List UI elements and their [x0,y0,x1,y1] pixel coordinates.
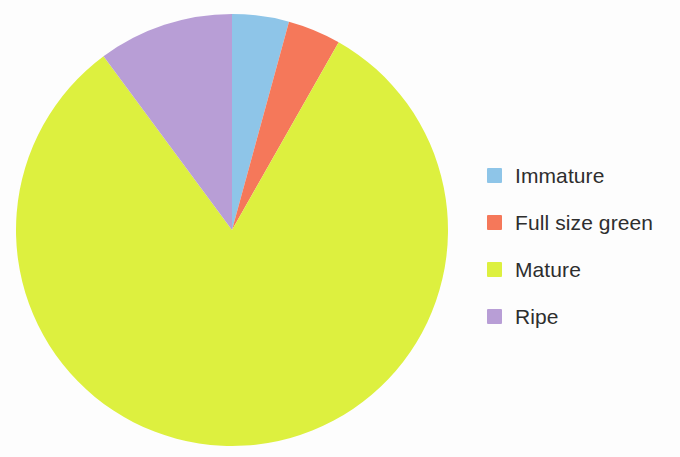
legend-item-immature[interactable]: Immature [487,152,677,199]
pie-chart-svg [0,0,470,457]
chart-legend: Immature Full size green Mature Ripe [487,152,677,340]
legend-swatch-mature [487,262,502,277]
pie-slice-group [16,14,448,446]
legend-label-mature: Mature [515,259,581,280]
legend-item-ripe[interactable]: Ripe [487,293,677,340]
pie-chart-figure: Immature Full size green Mature Ripe [0,0,680,457]
legend-item-full-size-green[interactable]: Full size green [487,199,677,246]
legend-label-immature: Immature [515,165,605,186]
pie-chart-plot-area [0,0,470,457]
legend-swatch-ripe [487,309,502,324]
legend-item-mature[interactable]: Mature [487,246,677,293]
legend-label-ripe: Ripe [515,306,559,327]
legend-label-full-size-green: Full size green [515,212,653,233]
legend-swatch-immature [487,168,502,183]
legend-swatch-full-size-green [487,215,502,230]
